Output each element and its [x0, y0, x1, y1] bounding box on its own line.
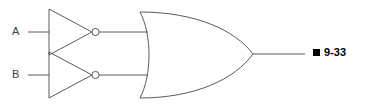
inverter-bottom-bubble-icon — [92, 71, 99, 78]
figure-number: 9-33 — [324, 46, 346, 58]
circuit-diagram-canvas: A B 9-33 — [0, 0, 370, 108]
inverter-top-bubble-icon — [92, 28, 99, 35]
figure-label: 9-33 — [313, 46, 346, 58]
or-gate-top-curve — [140, 12, 253, 54]
filled-square-icon — [313, 49, 320, 56]
inverter-bottom-triangle — [49, 52, 92, 98]
or-gate-back-curve — [140, 12, 149, 98]
inverter-top-triangle — [49, 9, 92, 55]
input-label-a: A — [12, 26, 19, 37]
input-label-b: B — [12, 69, 19, 80]
or-gate-bottom-curve — [140, 54, 253, 98]
